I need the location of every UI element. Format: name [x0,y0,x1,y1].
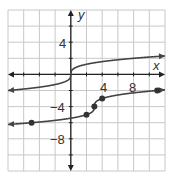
tick-label-x-4: 4 [100,80,107,95]
x-axis-arrow-right-icon [159,71,165,77]
tick-label-x-8: 8 [129,80,136,95]
cube-root-graph: y x 4 −4 −8 4 8 [0,0,172,184]
data-point [154,88,160,94]
x-axis-arrow-left-icon [8,71,14,77]
grid [8,10,165,171]
data-point [91,104,97,110]
tick-label-y-neg4: −4 [50,100,65,115]
curve-arrow-icon [8,87,14,93]
data-point [99,96,105,102]
data-point [29,120,35,126]
x-axis-label: x [152,58,160,73]
y-axis-arrow-up-icon [68,10,74,16]
data-point [84,112,90,118]
curve-arrow-icon [8,121,14,127]
y-axis-label: y [77,7,86,22]
tick-label-y-4: 4 [59,36,66,51]
tick-label-y-neg8: −8 [50,132,65,147]
y-axis-arrow-down-icon [68,165,74,171]
